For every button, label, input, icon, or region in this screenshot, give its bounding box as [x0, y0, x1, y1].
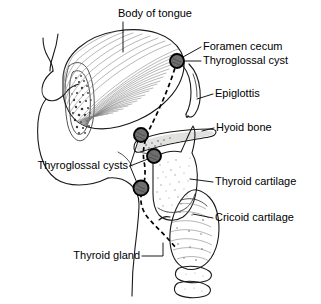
septum-stipple — [71, 75, 92, 134]
label-body-of-tongue: Body of tongue — [118, 7, 192, 19]
label-foramen-cecum: Foramen cecum — [203, 40, 282, 52]
label-thyroid-cartilage: Thyroid cartilage — [215, 175, 296, 187]
leader-cricoid-cartilage — [193, 214, 213, 218]
trachea-rings — [174, 266, 211, 297]
epiglottis-flap — [183, 64, 200, 117]
label-layer: Body of tongue Foramen cecum Thyroglossa… — [38, 7, 297, 261]
neck-profile — [108, 152, 139, 296]
thyroid-cartilage-stipple — [156, 157, 190, 212]
cricoid-and-gland — [159, 190, 219, 270]
tongue-striations — [63, 32, 178, 135]
cyst-infrahyoid — [147, 149, 161, 163]
cyst-pretracheal — [134, 181, 149, 196]
thyroglossal-diagram: Body of tongue Foramen cecum Thyroglossa… — [0, 0, 321, 304]
leader-epiglottis — [197, 94, 213, 99]
cyst-foramen-cecum — [170, 54, 184, 68]
label-thyroglossal-cysts: Thyroglossal cysts — [38, 159, 129, 171]
leader-foramen-cecum — [183, 47, 201, 57]
label-thyroid-gland: Thyroid gland — [73, 249, 140, 261]
leader-thyroid-gland — [142, 243, 163, 256]
leader-thyroid-cartilage — [190, 179, 213, 182]
label-thyroglossal-cyst: Thyroglossal cyst — [203, 54, 288, 66]
label-epiglottis: Epiglottis — [215, 87, 260, 99]
anatomy-illustration: Body of tongue Foramen cecum Thyroglossa… — [0, 0, 321, 304]
label-hyoid-bone: Hyoid bone — [216, 121, 272, 133]
label-cricoid-cartilage: Cricoid cartilage — [215, 211, 294, 223]
cyst-suprahyoid — [134, 128, 148, 142]
